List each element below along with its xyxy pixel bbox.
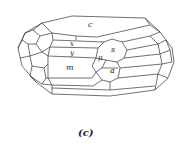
face-label-y: y [70,49,74,57]
face-label-a: a [110,67,115,75]
face-label-mu: μ [98,54,103,62]
crystal-figure: c x y m μ s a (c) [0,0,184,146]
face-label-s: s [111,46,115,54]
face-label-m: m [66,64,74,72]
face-label-x: x [70,40,74,48]
face-label-c: c [88,21,92,29]
figure-caption: (c) [78,127,94,138]
